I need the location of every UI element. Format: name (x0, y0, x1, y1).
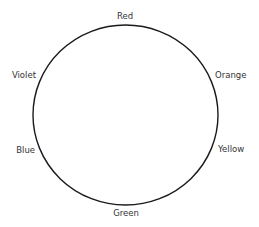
label-red: Red (117, 11, 133, 21)
label-green: Green (113, 208, 139, 218)
color-wheel-circle (33, 25, 218, 205)
label-orange: Orange (215, 70, 246, 80)
label-violet: Violet (12, 70, 36, 80)
color-wheel-diagram (0, 0, 259, 227)
label-yellow: Yellow (218, 144, 244, 154)
label-blue: Blue (16, 145, 35, 155)
